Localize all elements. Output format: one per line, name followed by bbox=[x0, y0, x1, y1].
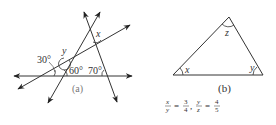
frac2-num: y bbox=[196, 98, 201, 106]
figure-a: 30° y x 60° 70° (a) bbox=[14, 12, 132, 103]
diagonal-line-falling bbox=[84, 12, 117, 102]
ratio-condition: x y = 3 4 , y z = 4 5 bbox=[165, 98, 220, 114]
label-60deg: 60° bbox=[69, 65, 83, 76]
separator: , bbox=[190, 101, 192, 111]
frac1-val-den: 4 bbox=[184, 106, 188, 114]
frac1-val-num: 3 bbox=[184, 98, 188, 106]
vertex-label-x: x bbox=[184, 64, 190, 75]
label-30deg: 30° bbox=[37, 54, 51, 65]
frac2-val-den: 5 bbox=[215, 106, 219, 114]
caption-a: (a) bbox=[72, 83, 83, 95]
caption-b: (b) bbox=[218, 82, 231, 95]
arc-70 bbox=[102, 70, 104, 76]
label-x: x bbox=[95, 28, 101, 39]
frac2-den: z bbox=[196, 106, 200, 114]
frac2-val-num: 4 bbox=[215, 98, 219, 106]
equals-1: = bbox=[174, 101, 179, 111]
diagram-canvas: 30° y x 60° 70° (a) z x y (b) x y = 3 4 … bbox=[0, 0, 276, 125]
arc-vertex-x bbox=[180, 68, 183, 75]
label-70deg: 70° bbox=[88, 65, 102, 76]
vertex-label-z: z bbox=[224, 27, 229, 38]
equals-2: = bbox=[205, 101, 210, 111]
frac1-den: y bbox=[165, 106, 170, 114]
figure-b: z x y (b) x y = 3 4 , y z = 4 5 bbox=[165, 17, 263, 114]
label-y: y bbox=[61, 45, 67, 56]
frac1-num: x bbox=[165, 98, 170, 106]
vertex-label-y: y bbox=[249, 62, 255, 73]
